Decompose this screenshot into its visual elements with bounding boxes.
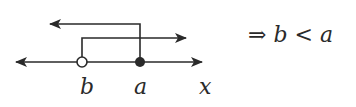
ray-from-b-right xyxy=(82,38,186,57)
label-a: a xyxy=(134,76,147,98)
label-x: x xyxy=(199,76,211,98)
open-point-b xyxy=(77,57,87,67)
ray-from-a-left xyxy=(50,24,140,62)
conclusion-left: b xyxy=(273,22,287,47)
conclusion-relation: < xyxy=(295,22,313,47)
filled-point-a xyxy=(135,57,145,67)
conclusion-expression: ⇒ b < a xyxy=(248,24,333,46)
conclusion-right: a xyxy=(320,22,333,47)
label-b: b xyxy=(80,76,94,98)
number-line-diagram xyxy=(0,0,356,107)
implies-arrow: ⇒ xyxy=(248,22,266,47)
